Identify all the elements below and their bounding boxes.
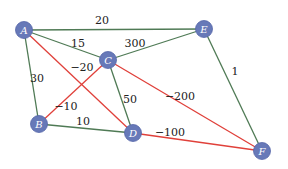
edge-weight-label: −10: [54, 100, 77, 113]
node-label: E: [199, 24, 208, 35]
edge-weight-label: 10: [76, 115, 90, 128]
edge-weight-label: −200: [165, 90, 195, 103]
edge-a-c: [24, 30, 108, 60]
edge-weight-label: 30: [30, 72, 44, 85]
edge-d-f: [133, 133, 262, 151]
edge-weight-label: 300: [125, 37, 146, 50]
edge-weight-label: 1: [232, 65, 239, 78]
node-a: A: [16, 22, 33, 39]
node-b: B: [31, 116, 48, 133]
node-label: F: [258, 146, 267, 157]
edge-a-e: [24, 29, 204, 30]
node-label: B: [34, 119, 42, 130]
edge-c-e: [108, 29, 204, 60]
edge-e-f: [204, 29, 262, 151]
node-e: E: [196, 21, 213, 38]
node-d: D: [125, 125, 142, 142]
node-label: D: [128, 128, 137, 139]
edge-weight-label: −100: [155, 126, 185, 139]
edge-weight-label: 50: [123, 93, 137, 106]
node-label: A: [19, 25, 27, 36]
edge-weight-label: −20: [70, 61, 93, 74]
node-f: F: [254, 143, 271, 160]
node-c: C: [100, 52, 117, 69]
edge-weight-label: 20: [95, 14, 109, 27]
edge-weight-label: 15: [71, 37, 85, 50]
graph-diagram: 201530−20300−1050−20010−1001 ABCDEF: [0, 0, 288, 169]
node-label: C: [104, 55, 112, 66]
